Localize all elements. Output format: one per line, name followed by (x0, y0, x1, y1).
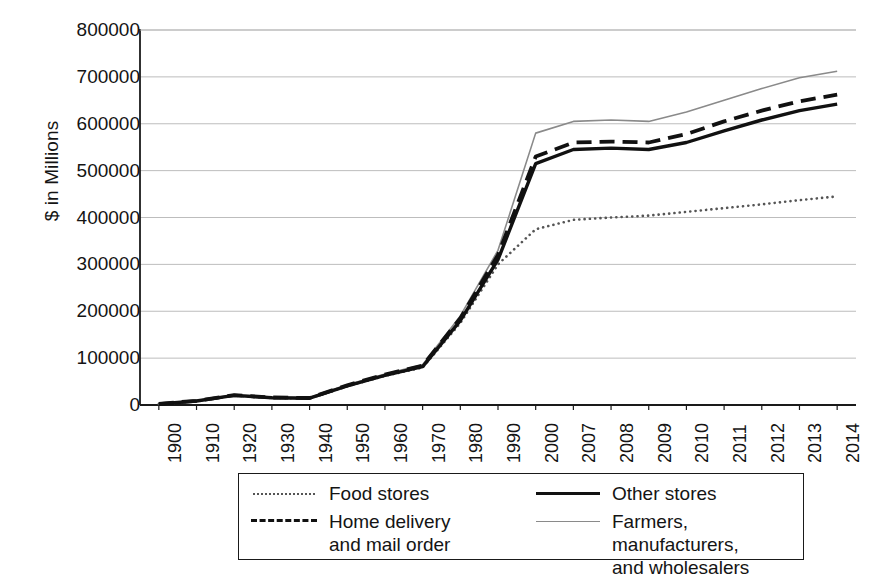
series-line (159, 196, 837, 404)
legend-item-label: Other stores (612, 482, 717, 505)
legend-line-swatch-icon (534, 482, 602, 502)
legend-item-label: Food stores (329, 482, 429, 505)
legend-line-swatch-icon (251, 482, 319, 502)
legend-line-swatch-icon (534, 510, 602, 530)
legend-item[interactable]: Home delivery and mail order (251, 510, 450, 556)
legend-item[interactable]: Other stores (534, 482, 717, 505)
legend-line-swatch-icon (251, 510, 319, 530)
gridlines (140, 30, 856, 358)
chart-legend: Food storesOther storesHome delivery and… (238, 473, 804, 560)
legend-item-label: Home delivery and mail order (329, 510, 450, 556)
axis-lines (140, 29, 856, 405)
series-line (159, 71, 837, 403)
legend-item[interactable]: Farmers, manufacturers, and wholesalers (534, 510, 803, 578)
legend-item-label: Farmers, manufacturers, and wholesalers (612, 510, 803, 578)
legend-item[interactable]: Food stores (251, 482, 429, 505)
